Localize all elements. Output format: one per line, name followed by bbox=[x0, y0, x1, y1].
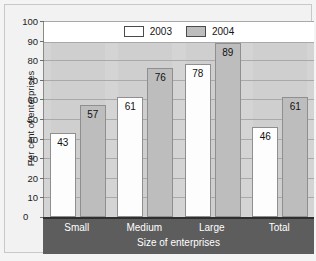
chart-frame: Per cent of enterprises 1020304050607080… bbox=[4, 4, 312, 253]
y-axis-tick-label: 80 bbox=[27, 55, 38, 66]
bar-small-2004: 57 bbox=[80, 105, 106, 217]
gridline bbox=[44, 80, 314, 81]
x-axis-title: Size of enterprises bbox=[43, 237, 314, 248]
bar-total-2003: 46 bbox=[252, 127, 278, 217]
y-axis-tick-label: 50 bbox=[27, 114, 38, 125]
x-axis-label-large: Large bbox=[199, 222, 225, 233]
bar-value-label: 61 bbox=[283, 101, 307, 112]
y-tick-mark bbox=[40, 139, 44, 140]
gridline bbox=[44, 99, 314, 100]
bar-value-label: 46 bbox=[253, 131, 277, 142]
bar-large-2003: 78 bbox=[185, 64, 211, 217]
y-axis-tick-label: 10 bbox=[27, 192, 38, 203]
y-axis-tick-label: 40 bbox=[27, 133, 38, 144]
chart-figure: Per cent of enterprises 1020304050607080… bbox=[0, 0, 316, 261]
y-axis-tick-label: 100 bbox=[22, 16, 38, 27]
legend-swatch-2003 bbox=[124, 26, 144, 37]
legend-swatch-2004 bbox=[186, 26, 206, 37]
y-tick-mark bbox=[40, 99, 44, 100]
y-tick-mark bbox=[40, 158, 44, 159]
bar-medium-2003: 61 bbox=[117, 97, 143, 217]
x-axis-band: SmallMediumLargeTotal Size of enterprise… bbox=[43, 217, 314, 254]
y-tick-mark bbox=[40, 197, 44, 198]
plot-area: 102030405060708090100 2003 2004 43576176… bbox=[43, 21, 314, 217]
x-axis-label-medium: Medium bbox=[126, 222, 162, 233]
bar-value-label: 57 bbox=[81, 109, 105, 120]
y-axis-tick-label: 30 bbox=[27, 153, 38, 164]
y-tick-mark bbox=[40, 119, 44, 120]
legend-item-2004: 2004 bbox=[186, 26, 234, 37]
y-tick-mark bbox=[40, 80, 44, 81]
chart-legend: 2003 2004 bbox=[44, 21, 314, 43]
y-axis-tick-label: 60 bbox=[27, 94, 38, 105]
bar-large-2004: 89 bbox=[215, 43, 241, 217]
y-axis-tick-label: 20 bbox=[27, 172, 38, 183]
bar-medium-2004: 76 bbox=[147, 68, 173, 217]
y-axis-tick-label: 90 bbox=[27, 35, 38, 46]
gridline bbox=[44, 60, 314, 61]
bar-value-label: 89 bbox=[216, 47, 240, 58]
y-tick-mark bbox=[40, 178, 44, 179]
bar-value-label: 61 bbox=[118, 101, 142, 112]
legend-label-2003: 2003 bbox=[150, 26, 172, 37]
bar-value-label: 43 bbox=[51, 137, 75, 148]
bar-value-label: 78 bbox=[186, 68, 210, 79]
x-axis-label-total: Total bbox=[269, 222, 290, 233]
x-axis-label-small: Small bbox=[64, 222, 89, 233]
bar-small-2003: 43 bbox=[50, 133, 76, 217]
y-tick-mark bbox=[40, 60, 44, 61]
y-axis-tick-zero: 0 bbox=[23, 211, 28, 222]
legend-item-2003: 2003 bbox=[124, 26, 172, 37]
legend-label-2004: 2004 bbox=[212, 26, 234, 37]
bar-total-2004: 61 bbox=[282, 97, 308, 217]
bar-value-label: 76 bbox=[148, 72, 172, 83]
y-axis-tick-label: 70 bbox=[27, 74, 38, 85]
